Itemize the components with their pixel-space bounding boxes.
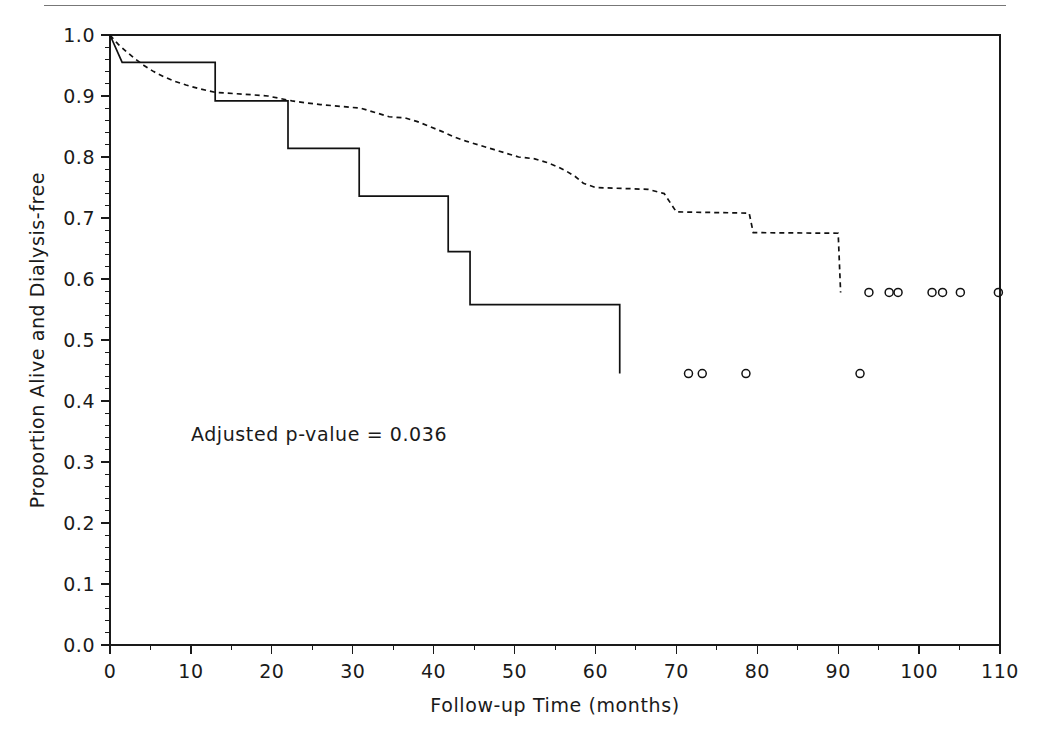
y-tick-label: 0.2 bbox=[63, 512, 95, 534]
x-axis-ticks bbox=[110, 645, 1000, 654]
x-tick-label: 80 bbox=[745, 660, 770, 682]
censor-mark bbox=[698, 370, 706, 378]
y-axis-ticks bbox=[101, 35, 110, 645]
x-tick-label: 100 bbox=[900, 660, 938, 682]
x-tick-label: 90 bbox=[826, 660, 851, 682]
y-tick-label: 0.1 bbox=[63, 573, 95, 595]
x-axis-tick-labels: 0102030405060708090100110 bbox=[104, 660, 1019, 682]
y-tick-label: 1.0 bbox=[63, 24, 95, 46]
censor-mark bbox=[685, 370, 693, 378]
x-axis-title: Follow-up Time (months) bbox=[430, 694, 679, 716]
p-value-annotation: Adjusted p-value = 0.036 bbox=[191, 423, 447, 445]
censor-mark bbox=[939, 288, 947, 296]
y-tick-label: 0.6 bbox=[63, 268, 95, 290]
series-group-dashed bbox=[110, 35, 841, 292]
x-tick-label: 110 bbox=[981, 660, 1019, 682]
censor-mark bbox=[742, 370, 750, 378]
plot-border bbox=[110, 35, 1000, 645]
censor-mark bbox=[856, 370, 864, 378]
censor-mark bbox=[994, 288, 1002, 296]
y-tick-label: 0.3 bbox=[63, 451, 95, 473]
y-axis-title: Proportion Alive and Dialysis-free bbox=[26, 172, 48, 508]
censor-mark bbox=[928, 288, 936, 296]
figure-page: 0102030405060708090100110 0.00.10.20.30.… bbox=[0, 0, 1040, 749]
x-tick-label: 70 bbox=[664, 660, 689, 682]
plot-frame bbox=[110, 35, 1000, 645]
censor-mark bbox=[885, 288, 893, 296]
y-tick-label: 0.7 bbox=[63, 207, 95, 229]
x-tick-label: 20 bbox=[259, 660, 284, 682]
censoring-marks-group bbox=[685, 288, 1003, 377]
censor-mark bbox=[894, 288, 902, 296]
survival-chart: 0102030405060708090100110 0.00.10.20.30.… bbox=[0, 0, 1040, 749]
y-tick-label: 0.8 bbox=[63, 146, 95, 168]
x-tick-label: 10 bbox=[178, 660, 203, 682]
data-series-group bbox=[110, 35, 841, 374]
x-tick-label: 50 bbox=[502, 660, 527, 682]
x-tick-label: 30 bbox=[340, 660, 365, 682]
y-tick-label: 0.5 bbox=[63, 329, 95, 351]
x-tick-label: 60 bbox=[583, 660, 608, 682]
x-tick-label: 0 bbox=[104, 660, 117, 682]
y-tick-label: 0.4 bbox=[63, 390, 95, 412]
y-tick-label: 0.0 bbox=[63, 634, 95, 656]
y-tick-label: 0.9 bbox=[63, 85, 95, 107]
censor-mark bbox=[956, 288, 964, 296]
x-tick-label: 40 bbox=[421, 660, 446, 682]
censor-mark bbox=[865, 288, 873, 296]
y-axis-tick-labels: 0.00.10.20.30.40.50.60.70.80.91.0 bbox=[63, 24, 95, 656]
chart-canvas: 0102030405060708090100110 0.00.10.20.30.… bbox=[0, 0, 1040, 749]
